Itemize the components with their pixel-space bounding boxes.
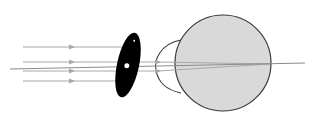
pinhole-occluder [110,30,145,99]
incoming-rays [23,47,124,81]
diagram-canvas [0,0,311,122]
pinhole-eye-diagram [0,0,311,122]
